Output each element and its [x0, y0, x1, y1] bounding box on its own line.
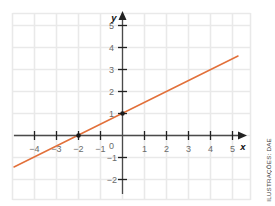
- x-tick-label: 5: [230, 144, 235, 154]
- x-tick-label: −3: [51, 144, 61, 154]
- x-tick-label: −4: [29, 144, 39, 154]
- y-tick-label: −1: [107, 153, 117, 163]
- x-intercept-point: [76, 133, 81, 138]
- illustration-credit: ILUSTRAÇÕES: DAE: [262, 102, 274, 202]
- x-tick-label: 2: [164, 144, 169, 154]
- y-tick-label: 4: [109, 43, 114, 53]
- y-tick-label: 2: [109, 87, 114, 97]
- chart-background: [0, 0, 275, 206]
- y-tick-label: 1: [109, 109, 114, 119]
- y-axis-label: y: [110, 12, 117, 23]
- x-tick-label: 4: [208, 144, 213, 154]
- y-intercept-point: [120, 111, 125, 116]
- y-tick-label: 3: [109, 65, 114, 75]
- graph-screenshot: −4 −3 −2 −1 1 2 3 4 5 5 4 3 2 1 −1 −2 0 …: [0, 0, 275, 206]
- y-tick-label: −2: [107, 175, 117, 185]
- illustration-credit-text: ILUSTRAÇÕES: DAE: [265, 138, 272, 202]
- x-tick-label: 1: [142, 144, 147, 154]
- x-axis-label: x: [239, 141, 246, 152]
- coordinate-plane-chart: −4 −3 −2 −1 1 2 3 4 5 5 4 3 2 1 −1 −2 0 …: [0, 0, 275, 206]
- origin-label: 0: [109, 141, 114, 151]
- x-tick-label: 3: [186, 144, 191, 154]
- x-tick-label: −1: [95, 144, 105, 154]
- x-tick-label: −2: [73, 144, 83, 154]
